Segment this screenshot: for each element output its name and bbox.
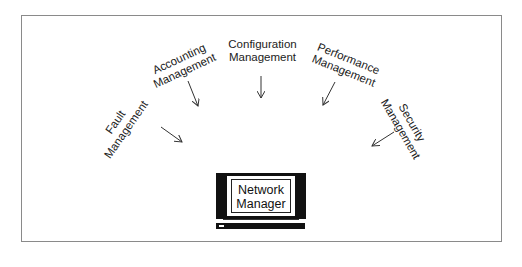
monitor-base-line [223, 219, 299, 220]
monitor-bezel-right [295, 173, 306, 219]
arrow-fault-icon [161, 127, 182, 142]
monitor-bezel-left [216, 173, 227, 219]
keyboard-icon [216, 223, 305, 229]
label-line: Network [231, 183, 291, 197]
network-manager-label: Network Manager [231, 183, 291, 211]
keyboard-slot [219, 225, 224, 227]
arrow-performance-icon [323, 82, 335, 105]
arrow-security-icon [372, 132, 394, 146]
arrow-accounting-icon [188, 81, 198, 106]
label-line: Manager [231, 197, 291, 211]
